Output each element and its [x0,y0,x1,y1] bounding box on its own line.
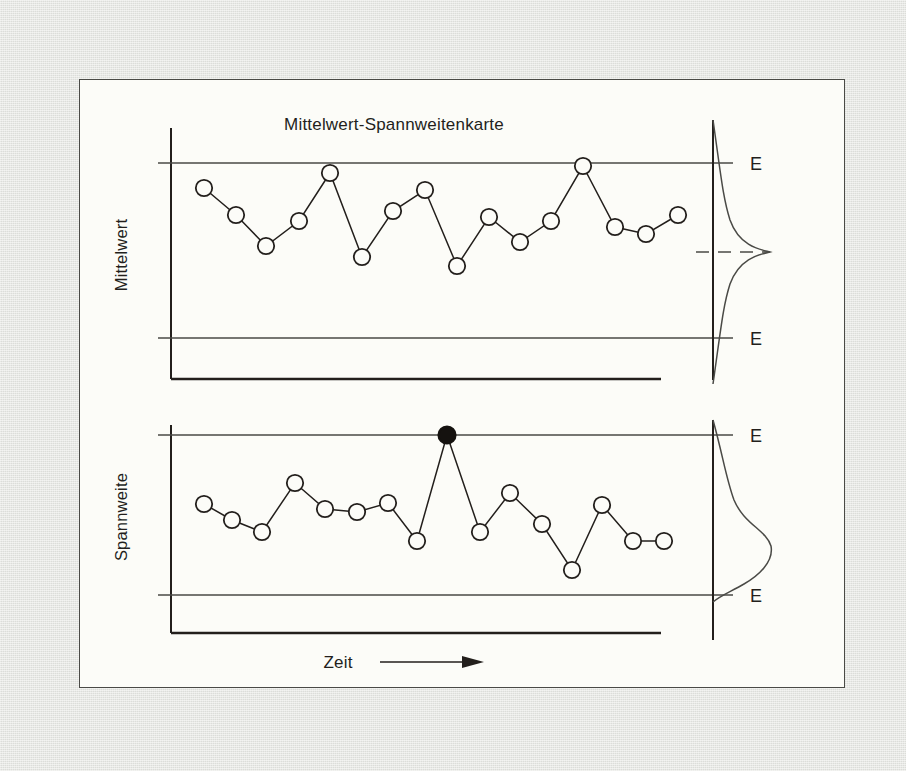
upper-chart-upper-limit-label: E [750,154,762,174]
data-point [196,496,212,512]
lower-chart: Spannweite [112,420,771,640]
data-point [502,485,518,501]
data-point [481,209,497,225]
x-axis-label: Zeit [323,653,352,672]
upper-chart-markers [196,158,686,274]
data-point [625,533,641,549]
data-point [385,203,401,219]
data-point [512,234,528,250]
data-point [354,249,370,265]
data-point [564,562,580,578]
data-point [417,182,433,198]
arrow-right-icon [380,656,484,668]
data-point [322,165,338,181]
data-point [543,213,559,229]
out-of-control-data-point [438,426,455,443]
lower-chart-markers [196,475,672,578]
data-point [228,207,244,223]
upper-chart-data-line [204,166,678,266]
data-point [594,497,610,513]
figure-panel: Mittelwert-Spannweitenkarte Mittelwert [79,79,845,688]
lower-chart-upper-limit-label: E [750,426,762,446]
screenshot-root: Mittelwert-Spannweitenkarte Mittelwert [0,0,906,771]
data-point [449,258,465,274]
data-point [291,213,307,229]
data-point [258,238,274,254]
upper-chart: Mittelwert [112,120,770,384]
upper-chart-lower-limit-label: E [750,329,762,349]
lower-chart-lower-limit-label: E [750,586,762,606]
lower-chart-y-axis-label: Spannweite [112,473,130,561]
control-chart-figure: Mittelwert-Spannweitenkarte Mittelwert [80,80,846,689]
upper-chart-y-axis-label: Mittelwert [112,218,130,291]
data-point [349,504,365,520]
data-point [638,226,654,242]
data-point [380,495,396,511]
figure-title: Mittelwert-Spannweitenkarte [284,115,504,134]
data-point [317,501,333,517]
data-point [287,475,303,491]
data-point [575,158,591,174]
data-point [409,533,425,549]
data-point [656,533,672,549]
data-point [224,512,240,528]
data-point [607,219,623,235]
data-point [670,207,686,223]
data-point [472,524,488,540]
data-point [254,524,270,540]
data-point [534,516,550,532]
lower-distribution-curve [713,420,771,602]
data-point [196,180,212,196]
